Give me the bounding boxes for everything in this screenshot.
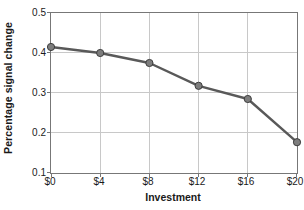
y-axis-title-text: Percentage signal change: [2, 22, 14, 154]
y-tick-label: 0.4: [18, 47, 46, 58]
data-series-line: [51, 13, 297, 173]
line-path: [51, 47, 297, 142]
data-point-marker: [146, 59, 153, 66]
y-tick-label: 0.1: [18, 167, 46, 178]
data-point-marker: [195, 82, 202, 89]
x-axis-title: Investment: [50, 191, 296, 203]
marker-group: [47, 43, 300, 145]
y-tick-label: 0.3: [18, 87, 46, 98]
x-tick-label: $20: [287, 176, 304, 187]
chart-figure: Percentage signal change 0.5 0.4 0.3 0.2…: [0, 0, 304, 210]
y-tick-label: 0.5: [18, 7, 46, 18]
data-point-marker: [244, 95, 251, 102]
x-axis-tick-labels: $0 $4 $8 $12 $16 $20: [50, 176, 296, 190]
data-point-marker: [293, 139, 300, 146]
plot-area: [50, 12, 298, 174]
x-tick-label: $0: [44, 176, 55, 187]
y-tick-label: 0.2: [18, 127, 46, 138]
x-tick-label: $16: [238, 176, 255, 187]
x-tick-label: $4: [93, 176, 104, 187]
y-axis-tick-labels: 0.5 0.4 0.3 0.2 0.1: [14, 0, 46, 210]
data-point-marker: [47, 43, 54, 50]
x-tick-label: $12: [189, 176, 206, 187]
x-tick-label: $8: [142, 176, 153, 187]
data-point-marker: [97, 49, 104, 56]
